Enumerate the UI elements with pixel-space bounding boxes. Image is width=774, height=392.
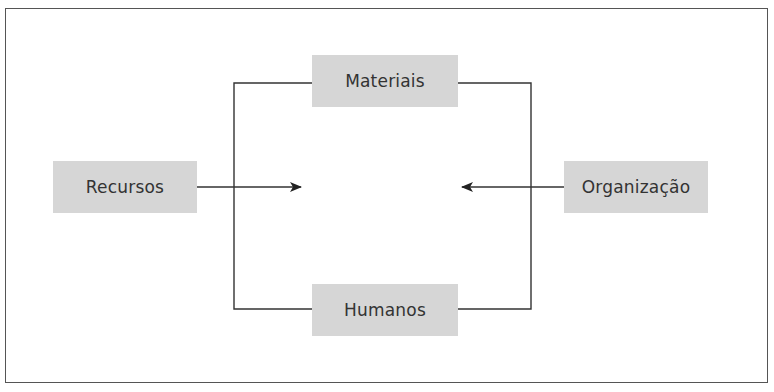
node-humanos: Humanos: [312, 284, 458, 336]
node-label: Materiais: [345, 71, 425, 91]
node-label: Humanos: [344, 300, 426, 320]
node-label: Organização: [582, 177, 690, 197]
node-organizacao: Organização: [564, 161, 708, 213]
node-label: Recursos: [86, 177, 164, 197]
left-connector: [234, 83, 312, 309]
node-recursos: Recursos: [53, 161, 197, 213]
right-connector: [458, 83, 531, 309]
node-materiais: Materiais: [312, 55, 458, 107]
